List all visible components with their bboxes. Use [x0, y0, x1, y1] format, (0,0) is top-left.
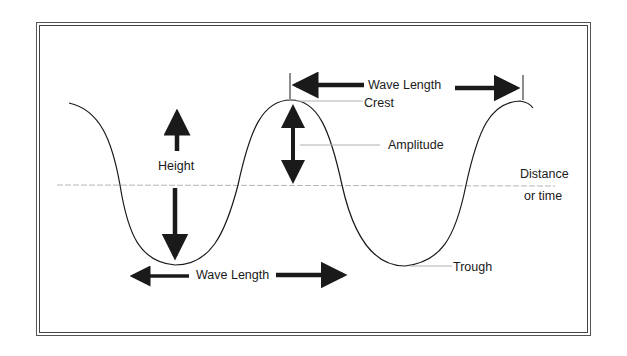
height-label: Height	[158, 160, 194, 173]
wave-curve	[69, 100, 533, 266]
amplitude-label: Amplitude	[388, 139, 444, 152]
distance-label: Distance	[520, 168, 569, 181]
wavelength-top-label: Wave Length	[368, 79, 441, 92]
distance-axis-line	[57, 185, 555, 186]
or-time-label: or time	[524, 190, 562, 203]
wavelength-bottom-label: Wave Length	[196, 269, 269, 282]
trough-label: Trough	[453, 261, 492, 274]
crest-label: Crest	[364, 97, 394, 110]
